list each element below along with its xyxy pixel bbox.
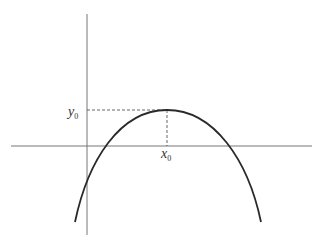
x0-label: x0 [160, 146, 171, 163]
diagram-canvas: y0 x0 [0, 0, 323, 245]
y0-label: y0 [66, 104, 78, 121]
parabola-curve [75, 110, 261, 222]
